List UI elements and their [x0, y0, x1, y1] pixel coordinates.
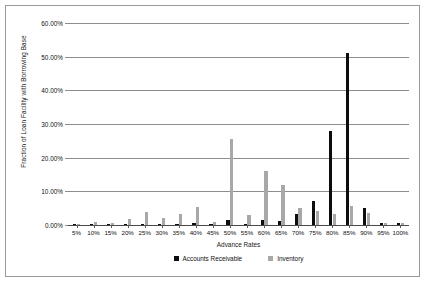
- x-axis-tick-label: 40%: [190, 229, 202, 236]
- bar-group: 30%: [153, 23, 170, 225]
- y-axis-tick-label: 30.00%: [41, 121, 63, 128]
- legend-item-accounts-receivable[interactable]: Accounts Receivable: [174, 255, 243, 262]
- y-axis-tick-label: 0.00%: [45, 222, 63, 229]
- x-axis-tick-label: 15%: [104, 229, 116, 236]
- x-axis-tick-label: 90%: [360, 229, 372, 236]
- x-axis-tick-mark: [196, 225, 197, 228]
- y-axis-tick-mark: [65, 225, 68, 226]
- x-axis-tick-mark: [128, 225, 129, 228]
- legend-swatch-icon: [268, 256, 273, 261]
- x-axis-tick-label: 45%: [207, 229, 219, 236]
- bars-layer: 5%10%15%20%25%30%35%40%45%50%55%60%65%70…: [68, 23, 409, 225]
- bar-group: 100%: [392, 23, 409, 225]
- x-axis-tick-label: 95%: [377, 229, 389, 236]
- bar-accounts-receivable: [329, 131, 332, 225]
- bar-accounts-receivable: [312, 201, 315, 225]
- bar-group: 45%: [204, 23, 221, 225]
- x-axis-tick-label: 55%: [241, 229, 253, 236]
- gridline: [68, 225, 409, 226]
- x-axis-tick-label: 75%: [309, 229, 321, 236]
- bar-inventory: [247, 215, 250, 225]
- x-axis-tick-mark: [281, 225, 282, 228]
- x-axis-tick-label: 100%: [393, 229, 409, 236]
- x-axis-tick-label: 20%: [121, 229, 133, 236]
- bar-inventory: [179, 214, 182, 225]
- x-axis-tick-mark: [298, 225, 299, 228]
- y-axis-tick-label: 20.00%: [41, 154, 63, 161]
- bar-group: 15%: [102, 23, 119, 225]
- bar-inventory: [264, 171, 267, 225]
- x-axis-tick-label: 80%: [326, 229, 338, 236]
- bar-accounts-receivable: [295, 214, 298, 225]
- bar-accounts-receivable: [346, 53, 349, 225]
- legend-swatch-icon: [174, 256, 179, 261]
- bar-group: 85%: [341, 23, 358, 225]
- x-axis-tick-mark: [77, 225, 78, 228]
- bar-group: 50%: [221, 23, 238, 225]
- x-axis-tick-mark: [383, 225, 384, 228]
- bar-group: 10%: [85, 23, 102, 225]
- x-axis-title: Advance Rates: [68, 241, 409, 248]
- x-axis-tick-label: 10%: [87, 229, 99, 236]
- bar-inventory: [196, 207, 199, 225]
- x-axis-tick-mark: [94, 225, 95, 228]
- bar-group: 60%: [256, 23, 273, 225]
- legend-item-inventory[interactable]: Inventory: [268, 255, 303, 262]
- y-axis-title: Fraction of Loan Facility with Borrowing…: [20, 17, 27, 187]
- x-axis-tick-mark: [213, 225, 214, 228]
- x-axis-tick-mark: [247, 225, 248, 228]
- bar-inventory: [145, 212, 148, 225]
- bar-group: 35%: [170, 23, 187, 225]
- bar-group: 65%: [273, 23, 290, 225]
- x-axis-tick-mark: [179, 225, 180, 228]
- chart-legend: Accounts ReceivableInventory: [68, 255, 409, 262]
- bar-group: 95%: [375, 23, 392, 225]
- x-axis-tick-label: 30%: [156, 229, 168, 236]
- x-axis-tick-mark: [162, 225, 163, 228]
- x-axis-tick-mark: [349, 225, 350, 228]
- x-axis-tick-label: 65%: [275, 229, 287, 236]
- x-axis-tick-mark: [264, 225, 265, 228]
- bar-inventory: [230, 139, 233, 225]
- y-axis-tick-label: 40.00%: [41, 87, 63, 94]
- bar-inventory: [333, 214, 336, 225]
- x-axis-tick-mark: [366, 225, 367, 228]
- bar-inventory: [298, 208, 301, 226]
- x-axis-tick-label: 85%: [343, 229, 355, 236]
- x-axis-tick-mark: [332, 225, 333, 228]
- x-axis-tick-mark: [230, 225, 231, 228]
- x-axis-tick-mark: [111, 225, 112, 228]
- bar-accounts-receivable: [363, 208, 366, 225]
- bar-group: 70%: [290, 23, 307, 225]
- x-axis-tick-label: 70%: [292, 229, 304, 236]
- legend-label: Inventory: [277, 255, 303, 262]
- x-axis-tick-label: 50%: [224, 229, 236, 236]
- bar-inventory: [281, 185, 284, 225]
- x-axis-tick-label: 25%: [139, 229, 151, 236]
- bar-inventory: [367, 213, 370, 225]
- bar-group: 80%: [324, 23, 341, 225]
- chart-container: Fraction of Loan Facility with Borrowing…: [5, 5, 420, 277]
- plot-area: 60.00%50.00%40.00%30.00%20.00%10.00%0.00…: [68, 23, 409, 225]
- legend-label: Accounts Receivable: [183, 255, 243, 262]
- bar-inventory: [316, 211, 319, 225]
- bar-group: 75%: [307, 23, 324, 225]
- bar-group: 20%: [119, 23, 136, 225]
- x-axis-tick-label: 35%: [173, 229, 185, 236]
- x-axis-tick-label: 5%: [72, 229, 81, 236]
- y-axis-tick-label: 60.00%: [41, 20, 63, 27]
- x-axis-tick-mark: [145, 225, 146, 228]
- x-axis-tick-mark: [400, 225, 401, 228]
- x-axis-tick-label: 60%: [258, 229, 270, 236]
- bar-group: 55%: [239, 23, 256, 225]
- bar-inventory: [162, 218, 165, 225]
- y-axis-tick-label: 10.00%: [41, 188, 63, 195]
- x-axis-tick-mark: [315, 225, 316, 228]
- y-axis-tick-label: 50.00%: [41, 53, 63, 60]
- bar-group: 25%: [136, 23, 153, 225]
- bar-group: 40%: [187, 23, 204, 225]
- bar-group: 90%: [358, 23, 375, 225]
- bar-inventory: [350, 206, 353, 225]
- bar-group: 5%: [68, 23, 85, 225]
